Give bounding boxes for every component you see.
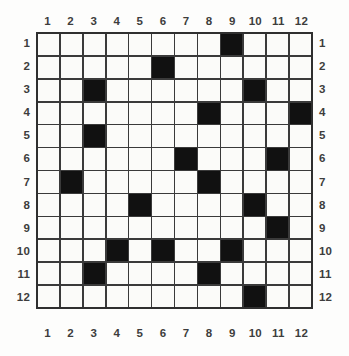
grid-cell-r5-c5[interactable] <box>129 125 150 146</box>
grid-cell-r9-c12[interactable] <box>290 217 311 238</box>
grid-cell-r4-c7[interactable] <box>175 103 196 124</box>
grid-cell-r9-c3[interactable] <box>84 217 105 238</box>
grid-cell-r3-c11[interactable] <box>267 80 288 101</box>
grid-cell-r10-c7[interactable] <box>175 240 196 261</box>
grid-cell-r8-c8[interactable] <box>198 194 219 215</box>
grid-cell-r1-c11[interactable] <box>267 34 288 55</box>
grid-cell-r6-c6[interactable] <box>152 148 173 169</box>
grid-cell-r5-c6[interactable] <box>152 125 173 146</box>
puzzle-grid[interactable] <box>36 32 313 309</box>
grid-cell-r9-c5[interactable] <box>129 217 150 238</box>
grid-cell-r1-c10[interactable] <box>244 34 265 55</box>
grid-cell-r12-c8[interactable] <box>198 286 219 307</box>
grid-cell-r10-c5[interactable] <box>129 240 150 261</box>
grid-cell-r3-c7[interactable] <box>175 80 196 101</box>
grid-cell-r1-c6[interactable] <box>152 34 173 55</box>
grid-cell-r7-c3[interactable] <box>84 171 105 192</box>
grid-cell-r3-c12[interactable] <box>290 80 311 101</box>
grid-cell-r10-c2[interactable] <box>61 240 82 261</box>
grid-cell-r5-c7[interactable] <box>175 125 196 146</box>
grid-cell-r4-c9[interactable] <box>221 103 242 124</box>
grid-cell-r11-c7[interactable] <box>175 263 196 284</box>
grid-cell-r6-c1[interactable] <box>38 148 59 169</box>
grid-cell-r1-c12[interactable] <box>290 34 311 55</box>
grid-cell-r7-c8[interactable] <box>198 171 219 192</box>
grid-cell-r8-c1[interactable] <box>38 194 59 215</box>
grid-cell-r7-c10[interactable] <box>244 171 265 192</box>
grid-cell-r8-c9[interactable] <box>221 194 242 215</box>
grid-cell-r3-c5[interactable] <box>129 80 150 101</box>
grid-cell-r12-c6[interactable] <box>152 286 173 307</box>
grid-cell-r10-c3[interactable] <box>84 240 105 261</box>
grid-cell-r4-c12[interactable] <box>290 103 311 124</box>
grid-cell-r2-c10[interactable] <box>244 57 265 78</box>
grid-cell-r11-c9[interactable] <box>221 263 242 284</box>
grid-cell-r4-c2[interactable] <box>61 103 82 124</box>
grid-cell-r12-c5[interactable] <box>129 286 150 307</box>
grid-cell-r11-c4[interactable] <box>107 263 128 284</box>
grid-cell-r11-c6[interactable] <box>152 263 173 284</box>
grid-cell-r11-c3[interactable] <box>84 263 105 284</box>
grid-cell-r11-c10[interactable] <box>244 263 265 284</box>
grid-cell-r7-c5[interactable] <box>129 171 150 192</box>
grid-cell-r6-c4[interactable] <box>107 148 128 169</box>
grid-cell-r12-c4[interactable] <box>107 286 128 307</box>
grid-cell-r10-c1[interactable] <box>38 240 59 261</box>
grid-cell-r7-c4[interactable] <box>107 171 128 192</box>
grid-cell-r12-c3[interactable] <box>84 286 105 307</box>
grid-cell-r1-c2[interactable] <box>61 34 82 55</box>
grid-cell-r11-c12[interactable] <box>290 263 311 284</box>
grid-cell-r3-c8[interactable] <box>198 80 219 101</box>
grid-cell-r8-c5[interactable] <box>129 194 150 215</box>
grid-cell-r5-c10[interactable] <box>244 125 265 146</box>
grid-cell-r10-c8[interactable] <box>198 240 219 261</box>
grid-cell-r9-c1[interactable] <box>38 217 59 238</box>
grid-cell-r2-c5[interactable] <box>129 57 150 78</box>
grid-cell-r1-c8[interactable] <box>198 34 219 55</box>
grid-cell-r1-c1[interactable] <box>38 34 59 55</box>
grid-cell-r6-c10[interactable] <box>244 148 265 169</box>
grid-cell-r5-c1[interactable] <box>38 125 59 146</box>
grid-cell-r9-c6[interactable] <box>152 217 173 238</box>
grid-cell-r4-c5[interactable] <box>129 103 150 124</box>
grid-cell-r9-c7[interactable] <box>175 217 196 238</box>
grid-cell-r8-c7[interactable] <box>175 194 196 215</box>
grid-cell-r5-c9[interactable] <box>221 125 242 146</box>
grid-cell-r3-c1[interactable] <box>38 80 59 101</box>
grid-cell-r10-c10[interactable] <box>244 240 265 261</box>
grid-cell-r7-c12[interactable] <box>290 171 311 192</box>
grid-cell-r12-c11[interactable] <box>267 286 288 307</box>
grid-cell-r11-c2[interactable] <box>61 263 82 284</box>
grid-cell-r5-c8[interactable] <box>198 125 219 146</box>
grid-cell-r4-c8[interactable] <box>198 103 219 124</box>
grid-cell-r9-c11[interactable] <box>267 217 288 238</box>
grid-cell-r6-c11[interactable] <box>267 148 288 169</box>
grid-cell-r11-c8[interactable] <box>198 263 219 284</box>
grid-cell-r10-c11[interactable] <box>267 240 288 261</box>
grid-cell-r9-c9[interactable] <box>221 217 242 238</box>
grid-cell-r11-c11[interactable] <box>267 263 288 284</box>
grid-cell-r3-c9[interactable] <box>221 80 242 101</box>
grid-cell-r1-c7[interactable] <box>175 34 196 55</box>
grid-cell-r7-c7[interactable] <box>175 171 196 192</box>
grid-cell-r3-c3[interactable] <box>84 80 105 101</box>
grid-cell-r7-c9[interactable] <box>221 171 242 192</box>
grid-cell-r6-c3[interactable] <box>84 148 105 169</box>
grid-cell-r6-c7[interactable] <box>175 148 196 169</box>
grid-cell-r2-c7[interactable] <box>175 57 196 78</box>
grid-cell-r8-c3[interactable] <box>84 194 105 215</box>
grid-cell-r5-c3[interactable] <box>84 125 105 146</box>
grid-cell-r3-c4[interactable] <box>107 80 128 101</box>
grid-cell-r12-c12[interactable] <box>290 286 311 307</box>
grid-cell-r1-c5[interactable] <box>129 34 150 55</box>
grid-cell-r9-c2[interactable] <box>61 217 82 238</box>
grid-cell-r11-c5[interactable] <box>129 263 150 284</box>
grid-cell-r4-c4[interactable] <box>107 103 128 124</box>
grid-cell-r8-c2[interactable] <box>61 194 82 215</box>
grid-cell-r5-c12[interactable] <box>290 125 311 146</box>
grid-cell-r9-c10[interactable] <box>244 217 265 238</box>
grid-cell-r8-c11[interactable] <box>267 194 288 215</box>
grid-cell-r2-c11[interactable] <box>267 57 288 78</box>
grid-cell-r6-c12[interactable] <box>290 148 311 169</box>
grid-cell-r10-c4[interactable] <box>107 240 128 261</box>
